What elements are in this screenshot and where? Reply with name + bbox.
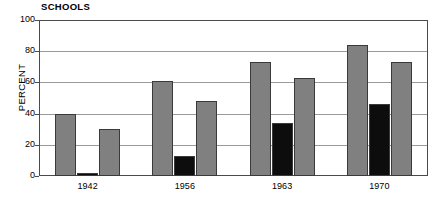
x-tick-label: 1970 <box>331 181 428 191</box>
y-tick-label: 60 <box>5 77 35 86</box>
bar <box>77 173 98 176</box>
bar <box>55 114 76 176</box>
chart-title: SCHOOLS <box>41 1 90 12</box>
bar <box>196 101 217 176</box>
bar-chart: SCHOOLS PERCENT 020406080100 19421956196… <box>0 0 438 200</box>
y-tick-label: 0 <box>5 171 35 180</box>
y-tick-label: 80 <box>5 46 35 55</box>
bar <box>347 45 368 176</box>
bar <box>152 81 173 176</box>
x-tick-label: 1956 <box>136 181 233 191</box>
x-tick-label: 1963 <box>234 181 331 191</box>
bar <box>174 156 195 176</box>
bar <box>391 62 412 176</box>
bar <box>99 129 120 176</box>
y-tick-label: 100 <box>5 15 35 24</box>
y-tick-label: 20 <box>5 140 35 149</box>
x-tick-label: 1942 <box>39 181 136 191</box>
y-tick-mark <box>35 176 39 177</box>
bar <box>369 104 390 176</box>
bar <box>250 62 271 176</box>
bars-layer <box>39 20 428 176</box>
y-tick-label: 40 <box>5 109 35 118</box>
bar <box>272 123 293 176</box>
bar <box>294 78 315 176</box>
